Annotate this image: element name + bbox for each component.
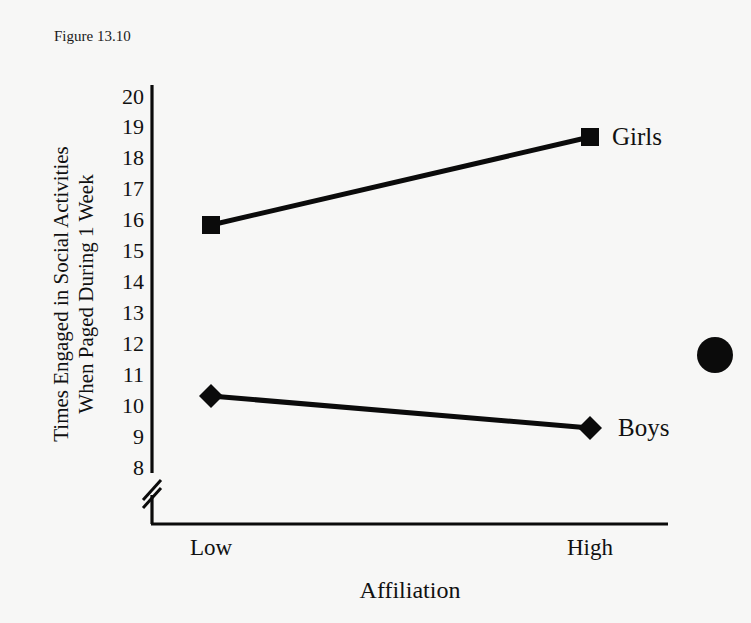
figure-page: Figure 13.10 Times Engaged in Social Act… [0, 0, 751, 623]
series-label-boys: Boys [618, 415, 669, 440]
x-tick-label-low: Low [190, 536, 232, 559]
series-line-girls [211, 137, 590, 225]
data-point-girls-low [202, 216, 220, 234]
data-point-boys-low [199, 384, 223, 408]
data-point-boys-high [578, 416, 602, 440]
series-line-boys [211, 396, 590, 428]
series-label-girls: Girls [612, 124, 662, 149]
page-marker-dot-icon [697, 337, 733, 373]
x-tick-label-high: High [567, 536, 613, 559]
chart-plot-area [0, 0, 751, 623]
data-point-girls-high [581, 128, 599, 146]
x-axis-title: Affiliation [360, 578, 461, 602]
